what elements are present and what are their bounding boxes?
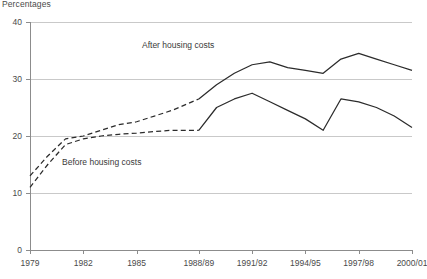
series-label-before-housing-costs: Before housing costs bbox=[62, 157, 141, 167]
series-before-housing-costs-solid bbox=[199, 93, 412, 130]
series-label-after-housing-costs: After housing costs bbox=[142, 40, 214, 50]
series-after-housing-costs-solid bbox=[199, 53, 412, 99]
